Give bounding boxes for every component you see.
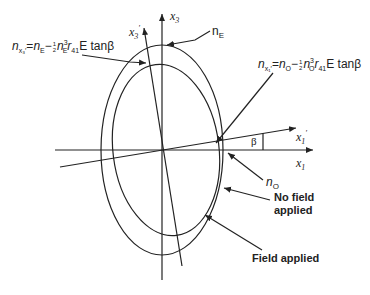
x3-prime-axis-label: x3′ [129, 25, 140, 41]
x1-prime-axis-label: x1′ [296, 130, 307, 146]
x3-prime-axis [144, 28, 182, 266]
field-applied-note: Field applied [252, 253, 319, 264]
no-field-leader [224, 188, 270, 200]
beta-angle-label: β [251, 136, 257, 147]
no-field-note: No field applied [274, 192, 314, 216]
x3-axis-label: x3 [170, 10, 179, 25]
nO-leader [228, 153, 263, 180]
nO-label: nO [266, 176, 279, 191]
equation-x1-prime: nx₁′=nO−12n3Or41E tanβ [258, 57, 361, 72]
x1-prime-axis [60, 128, 296, 167]
equation-x3-prime: nx₃′=nE−12n3Er41E tanβ [12, 39, 114, 54]
eq-x1-leader [216, 73, 273, 143]
eq-x3-leader [82, 55, 146, 63]
index-ellipse-diagram: x3 x3′ x1′ x1 β nE nO No field applied F… [0, 0, 370, 295]
x1-axis-label: x1 [296, 157, 305, 172]
nE-leader [167, 31, 210, 45]
field-applied-leader [205, 215, 262, 250]
nE-label: nE [212, 25, 224, 40]
